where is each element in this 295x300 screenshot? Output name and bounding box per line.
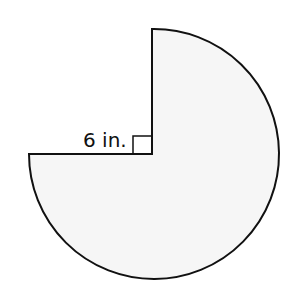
sector-diagram: 6 in.: [0, 0, 295, 300]
three-quarter-circle-sector: [29, 29, 279, 279]
radius-label: 6 in.: [83, 128, 127, 152]
right-angle-marker: [133, 136, 152, 154]
